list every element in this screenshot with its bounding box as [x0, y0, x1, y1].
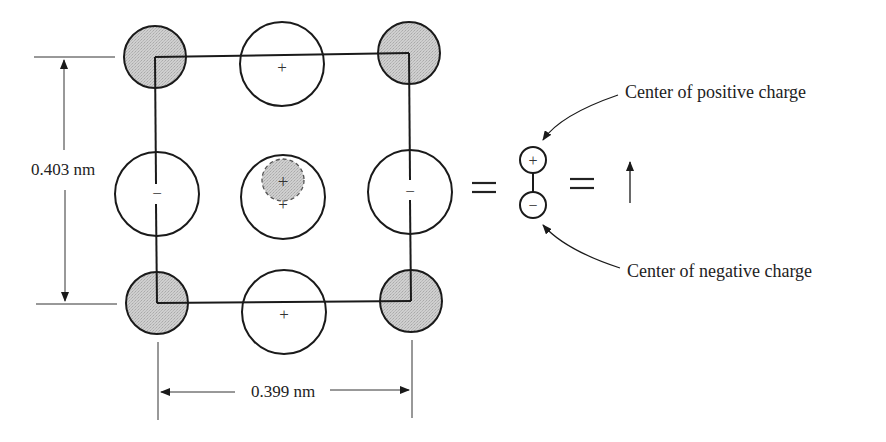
displaced-ion-plus: +: [278, 171, 289, 192]
annotations: Center of positive charge Center of nega…: [543, 82, 812, 281]
dipole: + −: [520, 147, 546, 218]
horizontal-dimension-label: 0.399 nm: [251, 382, 315, 401]
minus-sign-right: −: [405, 182, 415, 201]
vertical-dimension-label: 0.403 nm: [31, 160, 95, 179]
plus-sign-bottom: +: [279, 305, 289, 324]
unit-cell-diagram: 0.403 nm 0.399 nm + − − +: [0, 0, 886, 442]
dipole-positive-sign: +: [528, 152, 537, 169]
dipole-negative-sign: −: [528, 197, 537, 214]
center-atom-plus: +: [278, 195, 288, 214]
minus-sign-left: −: [152, 184, 162, 203]
horizontal-dimension: 0.399 nm: [158, 340, 412, 420]
displaced-ion: + +: [262, 159, 304, 214]
positive-pointer-arrow: [543, 95, 618, 140]
negative-pointer-arrow: [543, 225, 620, 268]
negative-charge-label: Center of negative charge: [627, 261, 812, 281]
vertical-dimension: 0.403 nm: [31, 57, 117, 304]
positive-charge-label: Center of positive charge: [625, 82, 806, 102]
plus-sign-top: +: [277, 58, 287, 77]
